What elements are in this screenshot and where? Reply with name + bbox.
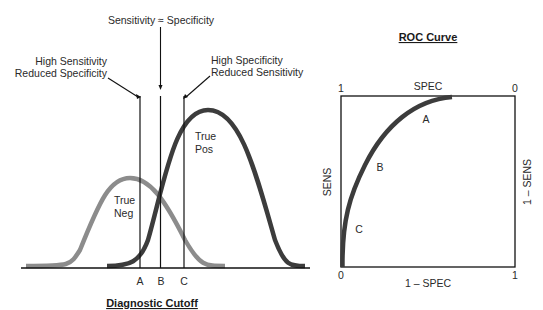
right-annotation-line1: High Specificity xyxy=(211,54,284,66)
sens-axis-label: SENS xyxy=(321,168,333,197)
one-minus-spec-axis-label: 1 – SPEC xyxy=(405,277,452,289)
cutoff-label-c: C xyxy=(180,275,188,287)
true-pos-label-line1: True xyxy=(195,130,216,142)
diagnostic-cutoff-panel: Sensitivity ≈ Specificity High Sensitivi… xyxy=(15,14,310,309)
arrow-head-icon xyxy=(159,85,163,90)
roc-point-label-a: A xyxy=(422,113,429,125)
cutoff-label-b: B xyxy=(157,275,164,287)
diagnostic-cutoff-title: Diagnostic Cutoff xyxy=(106,297,198,309)
sens-eq-spec-label: Sensitivity ≈ Specificity xyxy=(108,14,215,26)
true-pos-label-line2: Pos xyxy=(195,143,213,155)
roc-curve-line xyxy=(342,97,452,267)
cutoff-label-a: A xyxy=(136,275,143,287)
tick-top-left: 1 xyxy=(338,82,344,94)
true-neg-label-line1: True xyxy=(114,194,135,206)
tick-bottom-left: 0 xyxy=(338,269,344,281)
roc-curve-title: ROC Curve xyxy=(399,31,458,43)
left-annotation-line2: Reduced Specificity xyxy=(15,67,108,79)
roc-point-label-b: B xyxy=(376,161,383,173)
diagram-canvas: Sensitivity ≈ Specificity High Sensitivi… xyxy=(0,0,543,310)
tick-bottom-right: 1 xyxy=(512,269,518,281)
true-neg-label-line2: Neg xyxy=(114,207,133,219)
one-minus-sens-axis-label: 1 – SENS xyxy=(521,159,533,205)
true-negative-curve xyxy=(26,178,225,266)
roc-point-label-c: C xyxy=(355,223,363,235)
roc-curve-panel: ROC Curve SPEC 1 – SPEC SENS 1 – SENS 1 … xyxy=(321,31,533,289)
right-annotation-leader xyxy=(186,76,210,97)
tick-top-right: 0 xyxy=(512,82,518,94)
left-annotation-leader xyxy=(108,78,138,97)
right-annotation-line2: Reduced Sensitivity xyxy=(211,66,304,78)
left-annotation-line1: High Sensitivity xyxy=(35,55,108,67)
spec-axis-label: SPEC xyxy=(414,80,443,92)
